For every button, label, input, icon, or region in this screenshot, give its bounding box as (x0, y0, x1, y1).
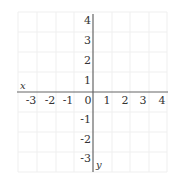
y-tick: 2 (84, 54, 91, 67)
x-tick: -1 (63, 94, 74, 107)
x-axis-label: x (20, 80, 26, 91)
y-tick: 3 (84, 34, 91, 47)
y-tick: -1 (80, 113, 91, 126)
y-tick-labels: 4 3 2 1 -1 -2 -3 (80, 14, 91, 165)
x-tick: 3 (140, 94, 147, 107)
x-tick: 1 (104, 94, 111, 107)
y-tick: -3 (80, 152, 91, 165)
x-tick: 4 (159, 94, 166, 107)
y-axis-label: y (95, 159, 102, 170)
x-tick: -3 (26, 94, 37, 107)
coordinate-plane: x y -3 -2 -1 0 1 2 3 4 4 3 2 1 -1 -2 -3 (0, 0, 176, 179)
x-tick: 0 (85, 94, 92, 107)
x-tick: -2 (45, 94, 56, 107)
y-tick: -2 (80, 133, 91, 146)
x-tick-labels: -3 -2 -1 0 1 2 3 4 (26, 94, 166, 107)
y-tick: 1 (84, 74, 91, 87)
y-tick: 4 (84, 14, 91, 27)
x-tick: 2 (122, 94, 129, 107)
